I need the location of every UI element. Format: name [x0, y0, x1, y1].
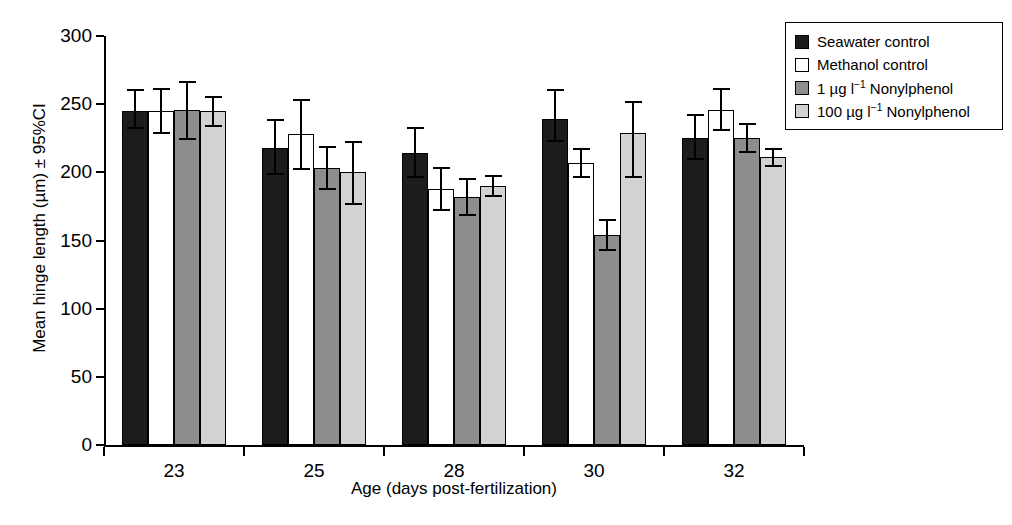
legend-label: 1 µg l−1 Nonylphenol: [817, 79, 953, 97]
error-bar-cap-upper: [687, 114, 704, 116]
bar: [174, 110, 200, 445]
y-tick-mark: [96, 308, 104, 310]
error-bar-cap-upper: [547, 89, 564, 91]
x-tick-mark: [523, 447, 525, 456]
y-tick-mark: [96, 444, 104, 446]
error-bar-cap-upper: [205, 96, 222, 98]
bar: [200, 111, 226, 445]
bar-chart-figure: Mean hinge length (µm) ± 95%CI 050100150…: [0, 0, 1012, 525]
y-tick-label: 50: [46, 367, 92, 386]
x-axis-title: Age (days post-fertilization): [104, 479, 804, 499]
bar: [262, 148, 288, 445]
y-tick-mark: [96, 35, 104, 37]
y-tick-label: 300: [46, 26, 92, 45]
error-bar-cap-upper: [713, 88, 730, 90]
error-bar-cap-upper: [127, 89, 144, 91]
x-tick-mark: [663, 447, 665, 456]
y-tick-label: 250: [46, 94, 92, 113]
plot-area: 2325283032: [104, 36, 804, 447]
x-tick-mark: [103, 447, 105, 456]
error-bar-cap-upper: [599, 219, 616, 221]
legend-item: Seawater control: [795, 30, 994, 53]
bar: [340, 172, 366, 445]
bar: [542, 119, 568, 445]
legend-swatch: [795, 35, 809, 49]
error-bar-cap-upper: [407, 127, 424, 129]
bar: [682, 138, 708, 445]
bar: [480, 186, 506, 445]
y-tick-label: 0: [46, 435, 92, 454]
x-tick-mark: [243, 447, 245, 456]
error-bar-cap-upper: [267, 119, 284, 121]
error-bar-cap-upper: [179, 81, 196, 83]
error-bar-cap-upper: [153, 88, 170, 90]
error-bar-cap-upper: [485, 175, 502, 177]
bar: [568, 163, 594, 445]
error-bar-cap-upper: [319, 146, 336, 148]
y-tick-mark: [96, 103, 104, 105]
bar: [708, 110, 734, 445]
bar: [428, 189, 454, 445]
chart-legend: Seawater controlMethanol control1 µg l−1…: [785, 22, 1003, 130]
legend-swatch: [795, 104, 809, 118]
error-bar-cap-upper: [293, 99, 310, 101]
bar: [620, 133, 646, 445]
bar: [314, 168, 340, 445]
error-bar-cap-upper: [573, 148, 590, 150]
bar: [402, 153, 428, 445]
error-bar-cap-upper: [345, 141, 362, 143]
y-tick-mark: [96, 376, 104, 378]
error-bar-cap-upper: [459, 178, 476, 180]
x-tick-mark: [803, 447, 805, 456]
legend-label: Seawater control: [817, 33, 930, 50]
legend-swatch: [795, 81, 809, 95]
legend-item: 100 µg l−1 Nonylphenol: [795, 99, 994, 122]
x-tick-mark: [383, 447, 385, 456]
bar: [288, 134, 314, 445]
bar: [760, 157, 786, 445]
bar: [594, 235, 620, 445]
legend-item: 1 µg l−1 Nonylphenol: [795, 76, 994, 99]
y-tick-label: 200: [46, 162, 92, 181]
legend-swatch: [795, 58, 809, 72]
bar: [734, 138, 760, 445]
error-bar-cap-upper: [739, 123, 756, 125]
y-axis-line: [104, 36, 106, 447]
x-axis-line: [104, 445, 804, 447]
legend-label: 100 µg l−1 Nonylphenol: [817, 102, 970, 120]
y-axis-tick-labels: 050100150200250300: [40, 0, 92, 525]
legend-item: Methanol control: [795, 53, 994, 76]
legend-label: Methanol control: [817, 56, 928, 73]
error-bar-cap-upper: [625, 101, 642, 103]
error-bar-cap-upper: [765, 148, 782, 150]
bar: [122, 111, 148, 445]
bar: [454, 197, 480, 445]
y-tick-mark: [96, 171, 104, 173]
y-tick-label: 100: [46, 299, 92, 318]
bar: [148, 111, 174, 445]
y-tick-label: 150: [46, 231, 92, 250]
error-bar-cap-upper: [433, 167, 450, 169]
y-tick-mark: [96, 240, 104, 242]
